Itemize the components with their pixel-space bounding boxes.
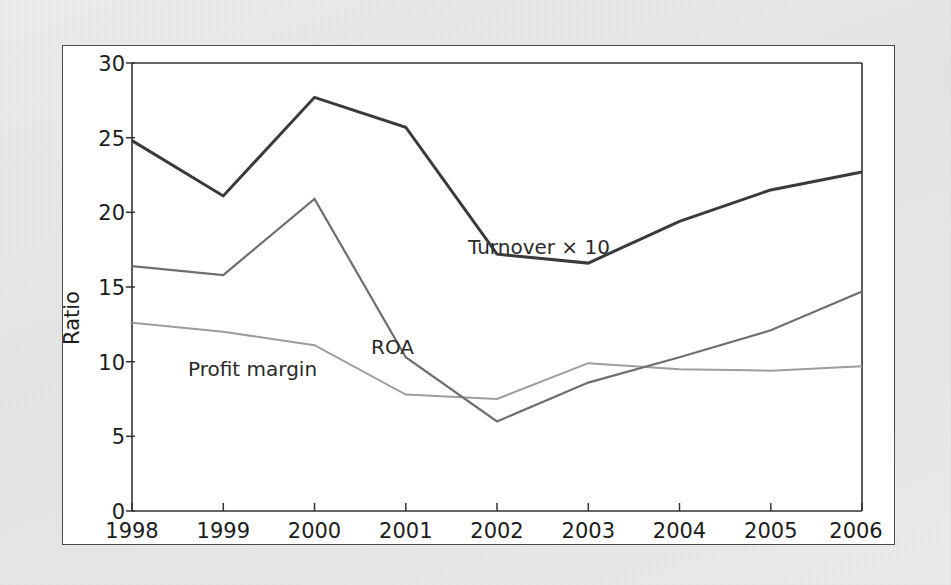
x-tick-label: 2001 [379,519,432,543]
series-annotation-turnover: Turnover × 10 [467,235,610,259]
series-annotation-roa: ROA [371,335,414,359]
y-axis-title: Ratio [63,291,84,345]
y-tick-label: 20 [98,201,125,225]
x-tick-label: 1999 [197,519,250,543]
y-tick-label: 30 [98,52,125,76]
plot-frame [132,63,862,511]
line-chart: Ratio 30 25 20 15 10 5 0 [63,46,893,543]
y-tick-label: 5 [112,425,125,449]
x-tick-label: 2002 [470,519,523,543]
series-line-roa [132,199,862,422]
y-axis-ticks [126,63,135,511]
y-axis-tick-labels: 30 25 20 15 10 5 0 [98,52,125,524]
series-annotation-profit-margin: Profit margin [188,357,317,381]
y-tick-label: 10 [98,351,125,375]
y-tick-label: 25 [98,127,125,151]
figure-frame: Ratio 30 25 20 15 10 5 0 [62,45,895,545]
x-axis-ticks [132,503,862,511]
x-tick-label: 1998 [105,519,158,543]
y-tick-label: 15 [98,276,125,300]
x-tick-label: 2003 [562,519,615,543]
x-tick-label: 2000 [288,519,341,543]
x-axis-tick-labels: 1998 1999 2000 2001 2002 2003 2004 2005 … [105,519,882,543]
x-tick-label: 2005 [744,519,797,543]
x-tick-label: 2004 [653,519,706,543]
x-tick-label: 2006 [829,519,882,543]
